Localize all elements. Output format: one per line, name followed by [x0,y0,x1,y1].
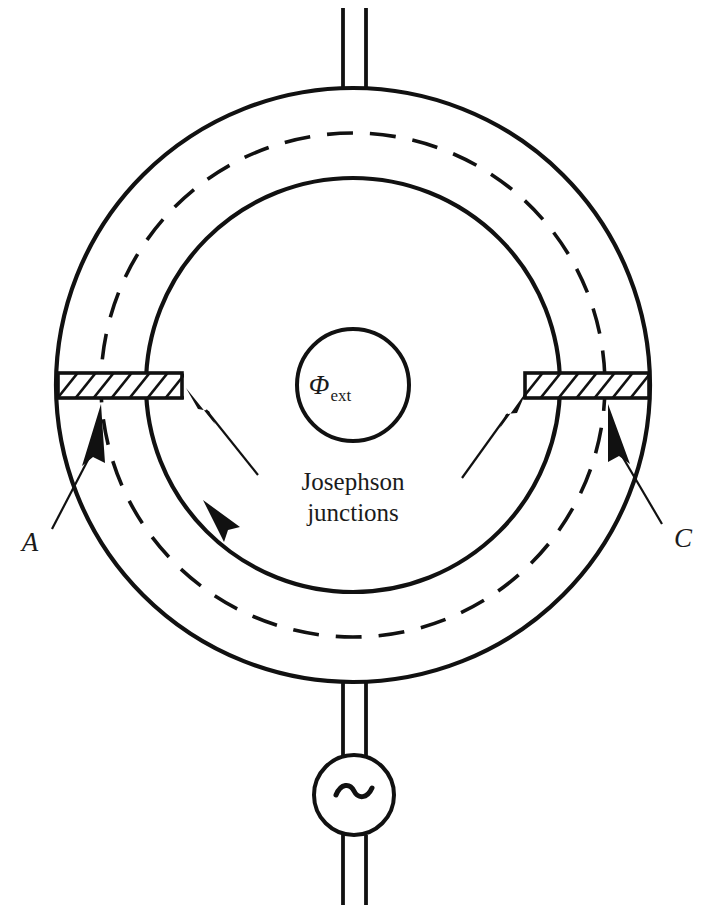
squid-diagram-figure: Φext Josephson junctions A C [0,0,707,911]
josephson-label-line2: junctions [306,499,399,526]
pointer-to-left-junction [186,388,258,475]
flux-symbol-label: Φext [309,370,352,405]
josephson-junction-left[interactable] [56,370,206,400]
flux-phi-glyph: Φ [309,370,330,400]
node-label-a: A [20,527,39,557]
top-lead [343,8,366,88]
pointer-to-node-c [608,404,662,524]
josephson-label-line1: Josephson [302,468,405,495]
flux-subscript-glyph: ext [330,386,351,405]
inner-superconducting-ring [146,178,560,592]
josephson-junction-right[interactable] [521,370,671,400]
squid-diagram-canvas: Φext Josephson junctions A C [0,0,707,911]
pointer-to-right-junction [462,392,526,478]
ac-source[interactable] [314,755,394,835]
output-lead [343,835,366,905]
node-label-c: C [674,523,693,553]
bottom-lead [343,681,366,757]
